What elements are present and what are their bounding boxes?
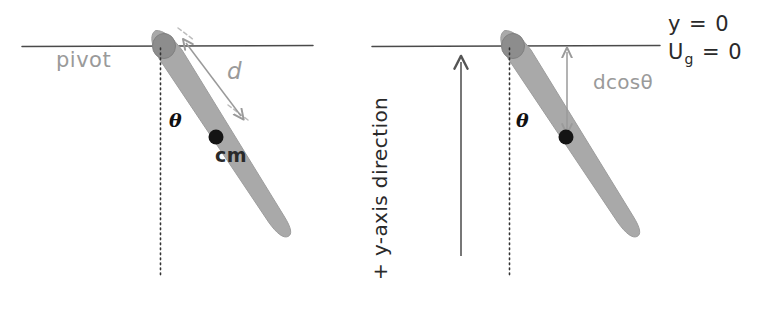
ug-equality: = 0: [702, 40, 743, 64]
pivot-label: pivot: [56, 50, 111, 71]
cm-dot-left: [209, 130, 224, 145]
theta-label-right: θ: [516, 111, 529, 130]
pivot-disc-left: [153, 34, 176, 59]
ug-equals-zero-label: Ug = 0: [668, 42, 743, 66]
physics-diagram-figure: pivot d cm θ θ dcosθ y = 0 Ug = 0 + y-ax…: [0, 0, 770, 314]
center-of-mass-label: cm: [215, 146, 247, 165]
theta-label-left: θ: [169, 111, 182, 130]
ug-symbol: U: [668, 40, 684, 64]
d-tick-top: [178, 28, 194, 40]
pivot-disc-right: [502, 34, 525, 59]
right-panel-group: [372, 30, 660, 277]
distance-d-label: d: [227, 60, 242, 83]
ug-subscript: g: [684, 51, 694, 67]
y-equals-zero-label: y = 0: [668, 14, 730, 35]
dcos-theta-label: dcosθ: [593, 72, 653, 92]
cm-dot-right: [559, 130, 574, 145]
y-axis-direction-label: + y-axis direction: [370, 97, 390, 280]
